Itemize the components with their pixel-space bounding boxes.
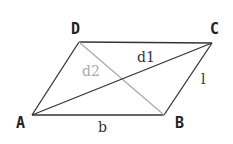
edge-label-l: l — [201, 71, 206, 87]
vertex-label-d: D — [71, 20, 80, 38]
edge-label-b: b — [98, 119, 107, 135]
vertex-label-b: B — [175, 114, 184, 132]
side-da — [32, 42, 79, 115]
vertex-label-c: C — [210, 20, 219, 38]
diagonal-label-d1: d1 — [137, 49, 155, 65]
diagonal-d1 — [32, 43, 212, 115]
parallelogram-diagram: A B C D b l d1 d2 — [0, 0, 233, 144]
edge-labels: b l d1 d2 — [82, 49, 206, 135]
diagonals — [32, 42, 212, 115]
vertex-label-a: A — [16, 114, 25, 132]
diagonal-label-d2: d2 — [82, 63, 100, 79]
side-cd — [79, 42, 212, 43]
